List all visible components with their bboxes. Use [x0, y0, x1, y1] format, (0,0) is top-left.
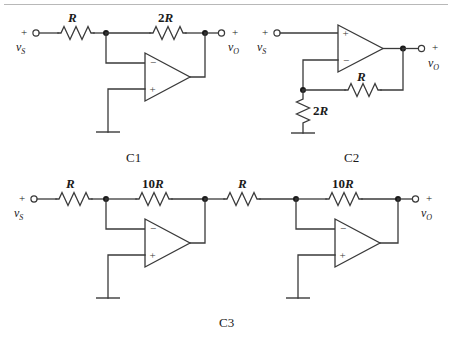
circuit-schematic-canvas: − + + − — [0, 0, 452, 343]
c3-stage1-input-resistor-label: R — [66, 177, 75, 190]
c1-feedback-resistor-symbol — [150, 27, 186, 40]
c1-output-plus-sign: + — [232, 27, 238, 38]
c2-feedback-resistor-label: R — [357, 70, 366, 83]
c2-input-terminal[interactable] — [274, 30, 280, 36]
c2-output-voltage-label: vO — [428, 57, 439, 72]
c3-stage2-opamp-output-wire — [380, 199, 398, 243]
c3-output-voltage-label: vO — [421, 207, 432, 222]
c1-input-terminal[interactable] — [33, 30, 39, 36]
c3-stage2-input-resistor-label: R — [238, 177, 247, 190]
c1-feedback-resistor-label: 2R — [158, 11, 173, 24]
c3-stage2-input-resistor-symbol — [224, 193, 260, 206]
c3-output-terminal[interactable] — [412, 196, 418, 202]
c2-opamp-noninverting-pin-sign: + — [343, 27, 349, 39]
c2-input-voltage-label: vS — [257, 41, 266, 56]
c1-ground-wire — [108, 89, 145, 132]
c1-opamp-output-wire — [190, 33, 205, 77]
c1-caption: C1 — [126, 151, 142, 164]
c2-opamp-inverting-pin-sign: − — [343, 54, 349, 66]
c3-input-voltage-label: vS — [14, 207, 23, 222]
circuit-c1: − + — [33, 27, 225, 141]
c2-gain-resistor-symbol — [297, 90, 310, 133]
c3-stage1-feedback-resistor-symbol — [136, 193, 172, 206]
circuit-c3: − + − + — [31, 193, 419, 307]
c2-input-plus-sign: + — [262, 27, 268, 38]
c3-stage1-inverting-input-wire — [106, 199, 145, 229]
c2-feedback-resistor-symbol — [345, 84, 381, 97]
c3-stage1-opamp-noninverting-pin-sign: + — [150, 249, 156, 261]
c3-stage2-feedback-resistor-symbol — [326, 193, 362, 206]
c1-inverting-input-wire — [106, 33, 145, 63]
c3-input-plus-sign: + — [19, 193, 25, 204]
opamp-circuits-figure: − + + − — [0, 0, 452, 343]
circuit-c2: + − — [274, 25, 425, 141]
c3-caption: C3 — [219, 316, 235, 329]
c2-feedback-wire-right — [381, 49, 403, 91]
c1-opamp-inverting-pin-sign: − — [150, 56, 156, 68]
c3-stage2-feedback-resistor-label: 10R — [332, 177, 354, 190]
c3-output-plus-sign: + — [426, 193, 432, 204]
c2-caption: C2 — [344, 151, 360, 164]
c2-output-plus-sign: + — [432, 42, 438, 53]
c3-stage1-input-resistor-symbol — [56, 193, 92, 206]
c1-opamp-noninverting-pin-sign: + — [150, 83, 156, 95]
c3-stage1-opamp-inverting-pin-sign: − — [150, 222, 156, 234]
c1-input-resistor-symbol — [58, 27, 94, 40]
c2-gain-resistor-label: 2R — [313, 104, 328, 117]
c3-input-terminal[interactable] — [31, 196, 37, 202]
c3-stage2-opamp-inverting-pin-sign: − — [340, 222, 346, 234]
c1-input-voltage-label: vS — [16, 41, 25, 56]
c1-output-terminal[interactable] — [218, 30, 224, 36]
c3-stage1-opamp-output-wire — [190, 199, 205, 243]
c3-stage2-opamp-noninverting-pin-sign: + — [340, 249, 346, 261]
c2-inverting-input-wire — [303, 60, 338, 90]
c1-input-plus-sign: + — [21, 27, 27, 38]
c1-input-resistor-label: R — [68, 11, 77, 24]
c3-stage2-ground-wire — [298, 255, 335, 298]
c2-output-terminal[interactable] — [418, 45, 424, 51]
c1-output-voltage-label: vO — [228, 41, 239, 56]
c3-stage1-ground-wire — [108, 255, 145, 298]
c3-stage1-feedback-resistor-label: 10R — [142, 177, 164, 190]
c3-stage2-inverting-input-wire — [296, 199, 335, 229]
